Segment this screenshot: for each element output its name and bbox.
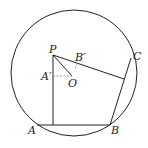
label-B-prime: B′ <box>74 51 86 64</box>
geometry-diagram: P B′ A′ O C A B <box>0 0 148 148</box>
label-C: C <box>133 50 142 63</box>
dashed-segment-B-prime-O <box>75 63 77 70</box>
label-O: O <box>68 77 77 90</box>
label-A: A <box>27 124 36 137</box>
label-B: B <box>110 124 119 137</box>
circumcircle <box>11 10 137 136</box>
label-P: P <box>48 43 57 56</box>
label-A-prime: A′ <box>40 70 52 83</box>
